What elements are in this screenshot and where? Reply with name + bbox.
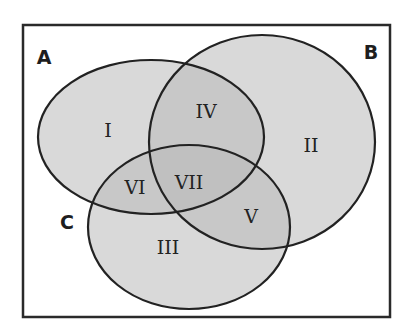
set-label-a: A xyxy=(37,46,52,68)
region-label-iv: IV xyxy=(195,100,217,122)
region-label-iii: III xyxy=(157,236,180,258)
region-label-vii: VII xyxy=(174,171,204,193)
region-label-vi: VI xyxy=(123,176,145,198)
set-label-c: C xyxy=(60,211,74,233)
set-label-b: B xyxy=(364,41,378,63)
region-label-i: I xyxy=(104,119,112,141)
region-label-v: V xyxy=(243,205,258,227)
venn-diagram: A B C I II III IV V VI VII xyxy=(0,0,408,329)
region-label-ii: II xyxy=(303,134,318,156)
